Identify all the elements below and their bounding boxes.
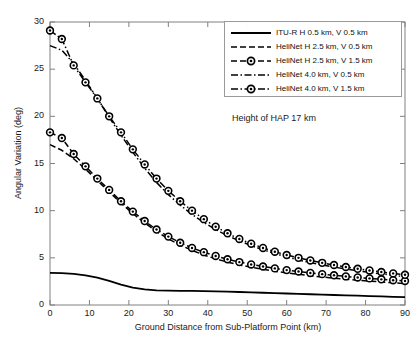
legend-line-swatch bbox=[230, 82, 272, 96]
legend-item[interactable]: HeliNet H 2.5 km, V 1.5 km bbox=[230, 54, 400, 68]
legend-item[interactable]: HeliNet H 2.5 km, V 0.5 km bbox=[230, 40, 400, 54]
legend-line-swatch bbox=[230, 40, 272, 54]
y-tick-label: 15 bbox=[14, 158, 44, 168]
y-tick-label: 0 bbox=[14, 299, 44, 309]
legend-label: HeliNet H 2.5 km, V 0.5 km bbox=[276, 41, 372, 53]
y-tick-label: 20 bbox=[14, 110, 44, 120]
x-tick-label: 30 bbox=[153, 308, 183, 318]
legend-line-swatch bbox=[230, 54, 272, 68]
x-tick-label: 0 bbox=[35, 308, 65, 318]
legend-item[interactable]: HeliNet 4.0 km, V 1.5 km bbox=[230, 82, 400, 96]
x-tick-label: 50 bbox=[232, 308, 262, 318]
x-tick-label: 60 bbox=[272, 308, 302, 318]
x-tick-label: 70 bbox=[311, 308, 341, 318]
chart-series bbox=[50, 273, 405, 297]
legend-label: HeliNet 4.0 km, V 1.5 km bbox=[276, 83, 364, 95]
x-tick-label: 40 bbox=[193, 308, 223, 318]
y-axis-label: Angular Variation (deg) bbox=[13, 88, 23, 218]
chart-series bbox=[47, 129, 409, 284]
legend-label: ITU-R H 0.5 km, V 0.5 km bbox=[276, 27, 368, 39]
chart-annotation: Height of HAP 17 km bbox=[232, 113, 316, 123]
legend-label: HeliNet 4.0 km, V 0.5 km bbox=[276, 69, 364, 81]
legend-line-swatch bbox=[230, 68, 272, 82]
chart-legend: ITU-R H 0.5 km, V 0.5 kmHeliNet H 2.5 km… bbox=[224, 21, 402, 97]
x-axis-label: Ground Distance from Sub-Platform Point … bbox=[50, 322, 406, 332]
x-tick-label: 10 bbox=[74, 308, 104, 318]
y-tick-label: 30 bbox=[14, 16, 44, 26]
legend-line-swatch bbox=[230, 26, 272, 40]
x-tick-label: 80 bbox=[351, 308, 381, 318]
y-tick-label: 25 bbox=[14, 63, 44, 73]
legend-label: HeliNet H 2.5 km, V 1.5 km bbox=[276, 55, 372, 67]
x-tick-label: 90 bbox=[390, 308, 419, 318]
legend-item[interactable]: ITU-R H 0.5 km, V 0.5 km bbox=[230, 26, 400, 40]
y-tick-label: 10 bbox=[14, 205, 44, 215]
legend-item[interactable]: HeliNet 4.0 km, V 0.5 km bbox=[230, 68, 400, 82]
x-tick-label: 20 bbox=[114, 308, 144, 318]
chart-figure: Angular Variation (deg) Ground Distance … bbox=[0, 0, 419, 344]
y-tick-label: 5 bbox=[14, 252, 44, 262]
